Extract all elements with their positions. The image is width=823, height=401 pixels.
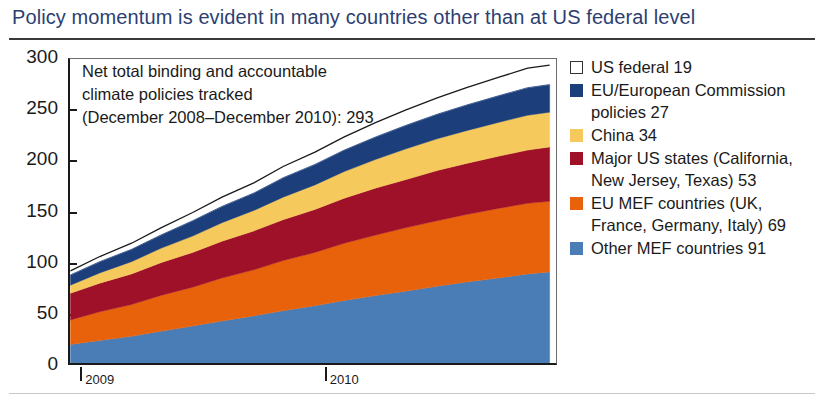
legend-swatch-icon <box>570 61 583 74</box>
y-axis-tick-label: 200 <box>0 148 58 170</box>
legend-item-label: China 34 <box>591 124 657 146</box>
legend-item-label: EU/European Commissionpolicies 27 <box>591 79 785 123</box>
legend-item-label: Major US states (California,New Jersey, … <box>591 147 793 191</box>
legend-item-label: US federal 19 <box>591 56 692 78</box>
legend-item[interactable]: US federal 19 <box>570 56 820 78</box>
footer-divider <box>9 393 815 394</box>
annotation-note: Net total binding and accountable climat… <box>82 60 382 129</box>
legend-swatch-icon <box>570 197 583 210</box>
annotation-line-1: Net total binding and accountable <box>82 60 382 83</box>
legend-item[interactable]: Major US states (California,New Jersey, … <box>570 147 820 191</box>
page-title: Policy momentum is evident in many count… <box>12 6 695 29</box>
legend-swatch-icon <box>570 152 583 165</box>
legend-label-line: New Jersey, Texas) 53 <box>591 169 793 191</box>
legend-item-label: Other MEF countries 91 <box>591 237 766 259</box>
x-axis-tick-label: 2009 <box>85 372 114 387</box>
annotation-line-2: climate policies tracked <box>82 83 382 106</box>
legend-label-line: policies 27 <box>591 101 785 123</box>
title-bar: Policy momentum is evident in many count… <box>0 0 823 41</box>
legend-item-label: EU MEF countries (UK,France, Germany, It… <box>591 192 786 236</box>
legend-swatch-icon <box>570 129 583 142</box>
title-divider <box>9 38 815 40</box>
legend-swatch-icon <box>570 84 583 97</box>
y-axis-tick-label: 0 <box>0 353 58 375</box>
y-axis-tick-label: 100 <box>0 251 58 273</box>
annotation-line-3: (December 2008–December 2010): 293 <box>82 106 382 129</box>
legend-label-line: Major US states (California, <box>591 147 793 169</box>
x-axis-tick-label: 2010 <box>330 372 359 387</box>
x-axis-tick-mark <box>80 367 82 381</box>
chart-legend: US federal 19EU/European Commissionpolic… <box>570 56 820 260</box>
y-axis-tick-label: 50 <box>0 302 58 324</box>
legend-item[interactable]: China 34 <box>570 124 820 146</box>
legend-item[interactable]: Other MEF countries 91 <box>570 237 820 259</box>
legend-swatch-icon <box>570 242 583 255</box>
chart-page: Policy momentum is evident in many count… <box>0 0 823 401</box>
y-axis-tick-label: 250 <box>0 97 58 119</box>
legend-item[interactable]: EU MEF countries (UK,France, Germany, It… <box>570 192 820 236</box>
legend-label-line: EU/European Commission <box>591 79 785 101</box>
legend-label-line: EU MEF countries (UK, <box>591 192 786 214</box>
legend-item[interactable]: EU/European Commissionpolicies 27 <box>570 79 820 123</box>
y-axis-tick-label: 150 <box>0 200 58 222</box>
legend-label-line: Other MEF countries 91 <box>591 237 766 259</box>
legend-label-line: China 34 <box>591 124 657 146</box>
x-axis-tick-mark <box>325 367 327 381</box>
legend-label-line: US federal 19 <box>591 56 692 78</box>
y-axis-tick-label: 300 <box>0 46 58 68</box>
legend-label-line: France, Germany, Italy) 69 <box>591 214 786 236</box>
